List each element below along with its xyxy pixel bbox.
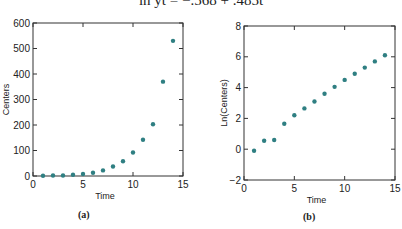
data-point [342, 78, 346, 82]
x-tick-label: 0 [241, 183, 247, 194]
right-plot-frame [244, 26, 395, 180]
data-point [322, 92, 326, 96]
y-axis-label: Ln(Centers) [219, 79, 229, 127]
x-tick-label: 5 [292, 183, 298, 194]
x-tick-label: 15 [177, 179, 189, 190]
y-tick-label: 200 [13, 120, 30, 131]
data-point [262, 139, 266, 143]
y-tick-label: 300 [13, 94, 30, 105]
data-point [373, 59, 377, 63]
y-tick-label: 0 [24, 171, 30, 182]
data-point [302, 106, 306, 110]
data-point [383, 53, 387, 57]
data-point [282, 122, 286, 126]
x-tick-label: 10 [339, 183, 351, 194]
y-tick-label: 4 [235, 82, 241, 93]
data-point [51, 173, 55, 177]
x-tick-label: 5 [80, 179, 86, 190]
data-point [111, 164, 115, 168]
y-tick-label: 0 [235, 144, 241, 155]
data-point [71, 173, 75, 177]
x-axis-label: Time [307, 195, 327, 205]
data-point [312, 99, 316, 103]
y-tick-label: 500 [13, 43, 30, 54]
left-plot-frame [33, 23, 183, 176]
x-tick-label: 0 [30, 179, 36, 190]
panel-label-a: (a) [78, 209, 90, 220]
data-point [101, 168, 105, 172]
y-tick-label: 400 [13, 69, 30, 80]
y-tick-label: 6 [235, 51, 241, 62]
y-tick-label: 600 [13, 18, 30, 29]
data-point [161, 79, 165, 83]
y-axis-label: Centers [1, 83, 11, 115]
data-point [81, 172, 85, 176]
y-tick-label: −2 [230, 175, 242, 186]
data-point [353, 72, 357, 76]
data-point [141, 138, 145, 142]
data-point [61, 173, 65, 177]
data-point [121, 159, 125, 163]
scatter-plots: 0510150100200300400500600TimeCenters0510… [0, 0, 402, 229]
data-point [363, 65, 367, 69]
x-tick-label: 15 [389, 183, 401, 194]
data-point [272, 138, 276, 142]
data-point [91, 170, 95, 174]
y-tick-label: 8 [235, 21, 241, 32]
data-point [41, 174, 45, 178]
data-point [131, 150, 135, 154]
y-tick-label: 100 [13, 145, 30, 156]
x-tick-label: 10 [127, 179, 139, 190]
data-point [292, 113, 296, 117]
x-axis-label: Time [95, 191, 115, 201]
data-point [171, 39, 175, 43]
panel-label-b: (b) [303, 211, 315, 222]
data-point [332, 85, 336, 89]
data-point [252, 149, 256, 153]
y-tick-label: 2 [235, 113, 241, 124]
data-point [151, 122, 155, 126]
